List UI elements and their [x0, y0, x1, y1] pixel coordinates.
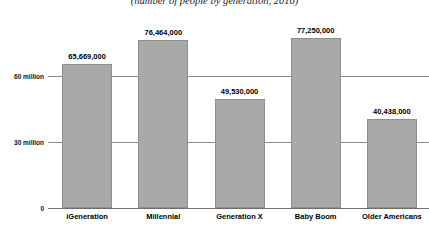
bar[interactable] — [215, 99, 265, 208]
bar-group: 40,438,000 — [367, 10, 417, 208]
bar[interactable] — [138, 40, 188, 208]
x-axis-category-label: Millennial — [120, 212, 206, 221]
bar-value-label: 49,530,000 — [203, 87, 277, 96]
x-axis-category-label: Generation X — [197, 212, 283, 221]
x-axis-category-label: Baby Boom — [273, 212, 359, 221]
y-axis-tick-label: 0 — [0, 205, 44, 212]
x-axis-labels: iGenerationMillennialGeneration XBaby Bo… — [48, 212, 429, 230]
bar[interactable] — [291, 38, 341, 208]
bar[interactable] — [367, 119, 417, 208]
axis-baseline — [48, 208, 429, 209]
bar-group: 77,250,000 — [291, 10, 341, 208]
bar-group: 76,464,000 — [138, 10, 188, 208]
y-axis-tick-label: 60 million — [0, 73, 44, 80]
y-axis-tick-label: 30 million — [0, 139, 44, 146]
bar-value-label: 76,464,000 — [126, 28, 200, 37]
bar-value-label: 77,250,000 — [279, 26, 353, 35]
bar[interactable] — [62, 64, 112, 208]
chart-subtitle: (number of people by generation, 2016) — [0, 0, 429, 7]
plot-area: 030 million60 million65,669,00076,464,00… — [48, 10, 429, 208]
bar-chart: (number of people by generation, 2016) 0… — [0, 0, 429, 230]
bar-value-label: 40,438,000 — [355, 107, 429, 116]
x-axis-category-label: Older Americans — [349, 212, 429, 221]
bar-value-label: 65,669,000 — [50, 52, 124, 61]
x-axis-category-label: iGeneration — [44, 212, 130, 221]
bar-group: 49,530,000 — [215, 10, 265, 208]
bar-group: 65,669,000 — [62, 10, 112, 208]
